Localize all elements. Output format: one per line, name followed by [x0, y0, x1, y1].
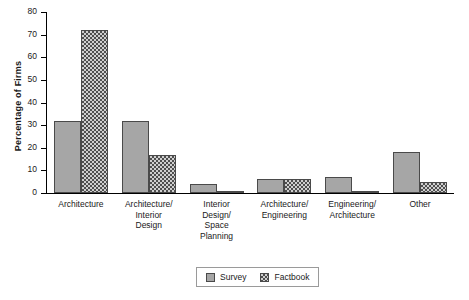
y-tick-label: 70: [13, 29, 37, 40]
plot-area: 01020304050607080: [46, 12, 454, 194]
bar-factbook: [284, 179, 311, 193]
legend-item-factbook: Factbook: [260, 272, 309, 282]
x-tick-label: Architecture/ Engineering: [250, 199, 318, 241]
y-tick-label: 80: [13, 6, 37, 17]
bar-survey: [325, 177, 352, 193]
bar-group: [386, 12, 454, 193]
bar-factbook: [217, 191, 244, 193]
bar-factbook: [352, 191, 379, 193]
y-tick: 0: [41, 193, 47, 194]
y-tick-label: 50: [13, 74, 37, 85]
bar-group: [318, 12, 386, 193]
bar-survey: [393, 152, 420, 193]
factbook-swatch-icon: [260, 273, 269, 282]
y-tick-label: 10: [13, 164, 37, 175]
y-tick-label: 40: [13, 97, 37, 108]
x-tick-label: Interior Design/ Space Planning: [183, 199, 251, 241]
bar-survey: [190, 184, 217, 193]
legend-item-survey: Survey: [206, 272, 246, 282]
y-tick-label: 60: [13, 51, 37, 62]
bar-factbook: [420, 182, 447, 193]
x-tick-label: Engineering/ Architecture: [318, 199, 386, 241]
y-tick-label: 30: [13, 119, 37, 130]
bar-group: [115, 12, 183, 193]
bar-survey: [122, 121, 149, 193]
bar-survey: [54, 121, 81, 193]
chart-legend: Survey Factbook: [196, 267, 319, 287]
y-tick-label: 20: [13, 142, 37, 153]
survey-swatch-icon: [206, 273, 215, 282]
bar-group: [183, 12, 251, 193]
y-tick-label: 0: [13, 187, 37, 198]
x-tick-label: Architecture: [47, 199, 115, 241]
x-axis-line: [46, 193, 454, 194]
bar-groups: [47, 12, 454, 193]
legend-label-factbook: Factbook: [274, 272, 309, 282]
bar-factbook: [149, 155, 176, 193]
x-tick-label: Architecture/ Interior Design: [115, 199, 183, 241]
bar-chart: Percentage of Firms 01020304050607080 Ar…: [0, 0, 469, 300]
x-axis-tick-labels: ArchitectureArchitecture/ Interior Desig…: [47, 199, 454, 241]
legend-label-survey: Survey: [220, 272, 246, 282]
bar-factbook: [81, 30, 108, 193]
x-tick-label: Other: [386, 199, 454, 241]
bar-group: [250, 12, 318, 193]
bar-survey: [257, 179, 284, 193]
bar-group: [47, 12, 115, 193]
